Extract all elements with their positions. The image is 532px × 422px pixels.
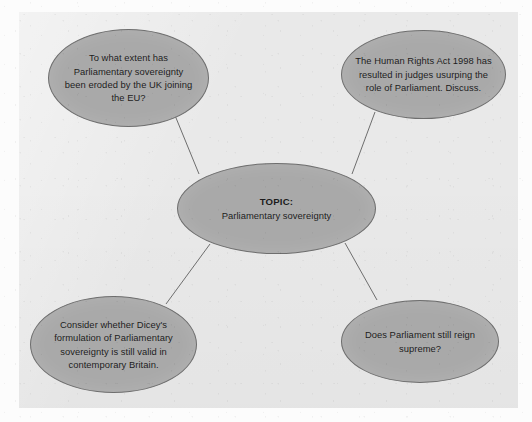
connector-center-to-bottom-left: [166, 244, 210, 304]
mind-map-node-bottom-right[interactable]: Does Parliament still reign supreme?: [341, 300, 499, 383]
topic-label: TOPIC:: [222, 195, 332, 209]
node-text-bottom-right: Does Parliament still reign supreme?: [342, 328, 498, 355]
connector-center-to-top-left: [174, 113, 199, 174]
mind-map-node-center-topic[interactable]: TOPIC: Parliamentary sovereignty: [177, 163, 376, 254]
node-text-top-left: To what extent has Parliamentary soverei…: [49, 51, 208, 104]
topic-value: Parliamentary sovereignty: [222, 209, 332, 222]
node-text-top-right: The Human Rights Act 1998 has resulted i…: [342, 54, 505, 94]
node-text-bottom-left: Consider whether Dicey's formulation of …: [31, 318, 196, 371]
mind-map-node-top-right[interactable]: The Human Rights Act 1998 has resulted i…: [341, 30, 506, 119]
connector-center-to-bottom-right: [345, 243, 377, 300]
mind-map-canvas: To what extent has Parliamentary soverei…: [0, 0, 532, 422]
node-text-center: TOPIC: Parliamentary sovereignty: [212, 195, 342, 222]
mind-map-node-top-left[interactable]: To what extent has Parliamentary soverei…: [48, 29, 209, 127]
connector-center-to-top-right: [352, 112, 375, 174]
mind-map-node-bottom-left[interactable]: Consider whether Dicey's formulation of …: [30, 296, 197, 393]
